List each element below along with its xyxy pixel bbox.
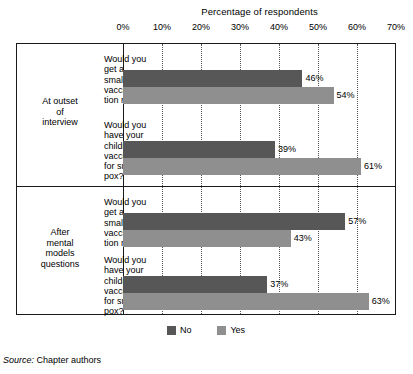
panel-label-line: After (16, 227, 104, 238)
question-label-line: children (104, 141, 121, 151)
question-label-line: vaccinated (104, 286, 121, 296)
question-label-line: pox? (104, 171, 121, 181)
bar-value-label: 61% (364, 161, 382, 171)
question-label-line: have your (104, 265, 121, 275)
question-label-line: tion now? (104, 95, 121, 105)
bar-value-label: 63% (372, 296, 390, 306)
question-label-line: for small- (104, 161, 121, 171)
panel-at-outset-of-interview: At outsetofinterviewWould youget asmallp… (16, 44, 396, 186)
question-label-line: vaccina- (104, 85, 121, 95)
panel-label-line: questions (16, 259, 104, 270)
bar-yes (123, 293, 369, 310)
legend-item-no: No (167, 325, 192, 335)
bar-no (123, 213, 345, 230)
x-tick-label: 20% (192, 22, 210, 32)
x-tick-label: 40% (270, 22, 288, 32)
question-label: Would youhave yourchildrenvaccinatedfor … (104, 120, 124, 182)
x-tick-label: 10% (153, 22, 171, 32)
bar-value-label: 43% (294, 233, 312, 243)
panel-label: Aftermentalmodelsquestions (16, 227, 104, 269)
source-label: Source: (3, 355, 34, 365)
chart-legend: NoYes (16, 325, 396, 335)
bar-yes (123, 230, 291, 247)
panel-label-line: At outset (16, 96, 104, 107)
question-label-line: Would you (104, 54, 121, 64)
legend-swatch-yes (217, 326, 226, 335)
bar-value-label: 46% (305, 73, 323, 83)
panel-label-line: interview (16, 117, 104, 128)
panel-label-line: of (16, 107, 104, 118)
question-label: Would youhave yourchildrenvaccinatedfor … (104, 255, 124, 317)
question-label: Would youget asmallpoxvaccina-tion now? (104, 54, 124, 105)
panel-label-line: mental (16, 238, 104, 249)
question-label-line: children (104, 276, 121, 286)
bar-value-label: 57% (348, 216, 366, 226)
question-label-line: have your (104, 130, 121, 140)
question-label-line: Would you (104, 120, 121, 130)
panel-label-line: models (16, 248, 104, 259)
bar-no (123, 141, 275, 158)
x-tick-label: 70% (387, 22, 405, 32)
question-label-line: for small- (104, 296, 121, 306)
chart-title: Percentage of respondents (123, 6, 396, 17)
question-label-line: get a (104, 207, 121, 217)
x-tick-label: 60% (348, 22, 366, 32)
x-tick-label: 50% (309, 22, 327, 32)
x-tick-label: 0% (116, 22, 129, 32)
question-label-line: get a (104, 64, 121, 74)
source-note: Source: Chapter authors (3, 355, 101, 365)
question-label-line: vaccina- (104, 228, 121, 238)
question-label-line: smallpox (104, 218, 121, 228)
panel-label: At outsetofinterview (16, 96, 104, 128)
question-label-line: tion now? (104, 238, 121, 248)
legend-item-yes: Yes (217, 325, 245, 335)
question-label-line: vaccinated (104, 151, 121, 161)
legend-label: No (180, 325, 192, 335)
legend-label: Yes (230, 325, 245, 335)
bar-value-label: 54% (337, 90, 355, 100)
question-label-line: pox? (104, 306, 121, 316)
panel-after-mental-models-questions: AftermentalmodelsquestionsWould youget a… (16, 187, 396, 315)
bar-yes (123, 158, 361, 175)
bar-yes (123, 87, 334, 104)
x-tick-label: 30% (231, 22, 249, 32)
question-label-line: smallpox (104, 75, 121, 85)
question-label-line: Would you (104, 197, 121, 207)
legend-swatch-no (167, 326, 176, 335)
question-label-line: Would you (104, 255, 121, 265)
bar-no (123, 276, 267, 293)
x-axis-tick-labels: 0%10%20%30%40%50%60%70% (0, 22, 413, 36)
question-label: Would youget asmallpoxvaccina-tion now? (104, 197, 124, 248)
bar-no (123, 70, 302, 87)
bar-value-label: 39% (278, 144, 296, 154)
source-value: Chapter authors (37, 355, 102, 365)
bar-value-label: 37% (270, 279, 288, 289)
